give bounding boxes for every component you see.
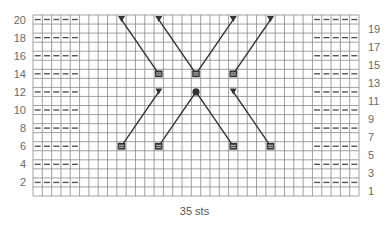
dot-icon [192, 88, 199, 95]
triangle-icon [155, 16, 162, 22]
row-label-left: 6 [20, 140, 26, 152]
square-icon [267, 143, 275, 150]
stitch-count-label: 35 sts [0, 205, 389, 217]
row-label-left: 4 [20, 158, 26, 170]
cable-line [121, 92, 158, 146]
row-label-right: 15 [368, 59, 380, 71]
cable-line [196, 20, 233, 74]
row-label-right: 1 [368, 185, 374, 197]
cable-line [196, 92, 233, 146]
purl-symbols [35, 20, 358, 183]
row-label-left: 8 [20, 122, 26, 134]
row-label-right: 5 [368, 149, 374, 161]
row-label-left: 2 [20, 176, 26, 188]
cable-line [159, 20, 196, 74]
row-label-left: 18 [14, 32, 26, 44]
row-label-right: 13 [368, 77, 380, 89]
row-label-right: 9 [368, 113, 374, 125]
triangle-icon [267, 16, 274, 22]
square-icon [155, 143, 163, 150]
row-label-left: 16 [14, 50, 26, 62]
row-label-right: 17 [368, 41, 380, 53]
row-label-left: 12 [14, 86, 26, 98]
triangle-icon [118, 16, 125, 22]
row-label-right: 11 [368, 95, 379, 107]
chart-grid [33, 15, 359, 196]
square-icon [192, 70, 200, 77]
cable-line [159, 92, 196, 146]
cable-line [121, 20, 158, 74]
triangle-icon [230, 88, 237, 94]
row-label-left: 20 [14, 14, 26, 26]
cable-line [233, 20, 270, 74]
square-icon [155, 70, 163, 77]
cable-lines [121, 20, 270, 147]
row-label-right: 3 [368, 167, 374, 179]
cable-symbols [118, 16, 275, 150]
cable-line [233, 92, 270, 146]
square-icon [118, 143, 126, 150]
square-icon [229, 70, 237, 77]
square-icon [229, 143, 237, 150]
row-label-left: 14 [14, 68, 26, 80]
row-label-right: 7 [368, 131, 374, 143]
knitting-chart: 2018161412108642191715131197531 [0, 0, 389, 226]
triangle-icon [230, 16, 237, 22]
triangle-icon [155, 88, 162, 94]
row-label-left: 10 [14, 104, 26, 116]
row-label-right: 19 [368, 23, 380, 35]
